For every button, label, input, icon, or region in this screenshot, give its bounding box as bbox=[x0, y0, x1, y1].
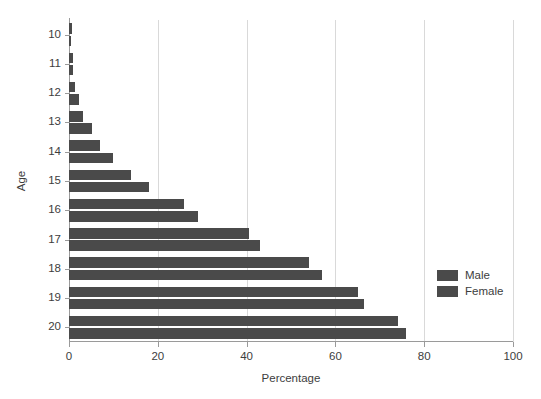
bar-female-age-15 bbox=[69, 182, 149, 193]
legend: MaleFemale bbox=[437, 269, 503, 297]
bar-female-age-13 bbox=[69, 123, 92, 134]
x-tick-mark bbox=[513, 342, 514, 347]
bar-male-age-13 bbox=[69, 111, 83, 122]
x-tick-label: 100 bbox=[503, 350, 522, 362]
x-tick-mark bbox=[69, 342, 70, 347]
legend-label-male: Male bbox=[465, 269, 490, 281]
x-tick-mark bbox=[247, 342, 248, 347]
x-tick-label: 40 bbox=[240, 350, 253, 362]
age-group-15 bbox=[69, 170, 513, 193]
y-tick-label-12: 12 bbox=[31, 86, 61, 98]
bar-female-age-20 bbox=[69, 328, 406, 339]
y-tick-label-20: 20 bbox=[31, 320, 61, 332]
x-axis-line bbox=[69, 341, 513, 342]
age-group-12 bbox=[69, 82, 513, 105]
bar-male-age-15 bbox=[69, 170, 131, 181]
y-tick-label-16: 16 bbox=[31, 203, 61, 215]
y-tick-mark bbox=[65, 122, 69, 123]
x-tick-label: 60 bbox=[329, 350, 342, 362]
age-group-17 bbox=[69, 228, 513, 251]
y-tick-mark bbox=[65, 64, 69, 65]
bar-female-age-19 bbox=[69, 299, 364, 310]
legend-label-female: Female bbox=[465, 285, 503, 297]
bar-female-age-17 bbox=[69, 240, 260, 251]
x-tick-label: 80 bbox=[418, 350, 431, 362]
x-tick-label: 20 bbox=[151, 350, 164, 362]
bar-female-age-18 bbox=[69, 270, 322, 281]
bar-male-age-12 bbox=[69, 82, 75, 93]
y-tick-label-15: 15 bbox=[31, 174, 61, 186]
y-tick-label-11: 11 bbox=[31, 57, 61, 69]
age-group-11 bbox=[69, 53, 513, 76]
bar-male-age-14 bbox=[69, 140, 100, 151]
y-tick-label-13: 13 bbox=[31, 115, 61, 127]
bar-female-age-10 bbox=[69, 36, 71, 47]
y-tick-label-19: 19 bbox=[31, 291, 61, 303]
x-tick-mark bbox=[158, 342, 159, 347]
y-tick-label-10: 10 bbox=[31, 28, 61, 40]
bar-male-age-10 bbox=[69, 23, 72, 34]
y-tick-mark bbox=[65, 181, 69, 182]
x-axis-title: Percentage bbox=[69, 372, 513, 384]
y-tick-mark bbox=[65, 240, 69, 241]
y-tick-label-17: 17 bbox=[31, 233, 61, 245]
y-tick-mark bbox=[65, 298, 69, 299]
bar-female-age-14 bbox=[69, 153, 113, 164]
age-group-10 bbox=[69, 23, 513, 46]
y-tick-mark bbox=[65, 327, 69, 328]
bar-male-age-11 bbox=[69, 53, 73, 64]
legend-swatch-female bbox=[437, 286, 458, 297]
bar-chart: 1011121314151617181920 020406080100 Perc… bbox=[0, 0, 541, 399]
bar-male-age-17 bbox=[69, 228, 249, 239]
y-tick-label-14: 14 bbox=[31, 145, 61, 157]
x-tick-mark bbox=[424, 342, 425, 347]
y-tick-label-18: 18 bbox=[31, 262, 61, 274]
x-tick-label: 0 bbox=[66, 350, 72, 362]
y-tick-mark bbox=[65, 35, 69, 36]
legend-item-female[interactable]: Female bbox=[437, 285, 503, 297]
age-group-16 bbox=[69, 199, 513, 222]
bar-female-age-12 bbox=[69, 94, 79, 105]
y-tick-mark bbox=[65, 152, 69, 153]
bar-male-age-16 bbox=[69, 199, 184, 210]
y-axis-title: Age bbox=[15, 171, 27, 191]
bar-female-age-11 bbox=[69, 65, 73, 76]
age-group-20 bbox=[69, 316, 513, 339]
age-group-13 bbox=[69, 111, 513, 134]
age-group-14 bbox=[69, 140, 513, 163]
y-tick-mark bbox=[65, 269, 69, 270]
bar-male-age-20 bbox=[69, 316, 398, 327]
y-tick-mark bbox=[65, 93, 69, 94]
legend-swatch-male bbox=[437, 270, 458, 281]
legend-item-male[interactable]: Male bbox=[437, 269, 503, 281]
bar-male-age-19 bbox=[69, 287, 358, 298]
bar-female-age-16 bbox=[69, 211, 198, 222]
bar-male-age-18 bbox=[69, 257, 309, 268]
x-tick-mark bbox=[335, 342, 336, 347]
gridline bbox=[513, 20, 514, 342]
y-tick-mark bbox=[65, 210, 69, 211]
